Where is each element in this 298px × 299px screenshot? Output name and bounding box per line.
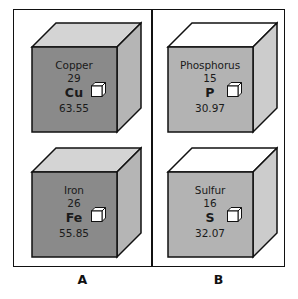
element-cubes-figure: Copper 29 Cu 63.55 Iron 26 Fe bbox=[0, 0, 298, 299]
cube-front-face bbox=[168, 172, 253, 257]
cube-front-face bbox=[168, 47, 253, 132]
cube-front-face bbox=[32, 47, 117, 132]
cube-iron: Iron 26 Fe 55.85 bbox=[24, 141, 142, 259]
cube-sulfur: Sulfur 16 S 32.07 bbox=[160, 141, 278, 259]
cube-iron-shape bbox=[24, 141, 142, 259]
cube-phosphorus-shape bbox=[160, 16, 278, 134]
cube-copper-shape bbox=[24, 16, 142, 134]
cube-copper: Copper 29 Cu 63.55 bbox=[24, 16, 142, 134]
cube-sulfur-shape bbox=[160, 141, 278, 259]
panel-caption-a: A bbox=[13, 272, 152, 287]
panel-caption-b: B bbox=[152, 272, 285, 287]
cube-front-face bbox=[32, 172, 117, 257]
cube-phosphorus: Phosphorus 15 P 30.97 bbox=[160, 16, 278, 134]
